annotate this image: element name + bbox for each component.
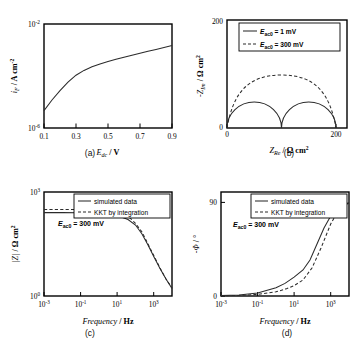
panel-c-legend-label-0: simulated data: [94, 198, 137, 205]
panel-d-xtick-3: 103: [326, 299, 336, 309]
panel-b-xtick-1: 200: [330, 130, 341, 139]
panel-a-plot: 0.1 0.3 0.5 0.7 0.9 10-2 10-6 iF / A cm-…: [0, 2, 181, 160]
panel-a-ytick-top: 10-2: [28, 19, 40, 29]
panel-d-xtick-0: 10-3: [215, 299, 227, 309]
panel-d-legend: simulated data KKT by integration: [251, 194, 347, 218]
panel-a-xtick-1: 0.3: [71, 132, 81, 141]
panel-c-ylabel: |Z| / Ω cm2: [10, 225, 20, 263]
panel-c-xtick-3: 103: [149, 299, 159, 309]
panel-a-label: (a): [70, 148, 110, 158]
panel-c-y-ticks: 103 100: [30, 187, 40, 301]
panel-d-xlabel: Frequency / Hz: [258, 317, 310, 326]
panel-b-ylabel: -ZIm / Ω cm2: [195, 55, 206, 97]
panel-c-ytick-top: 103: [30, 187, 40, 197]
panel-a-curve-if: [44, 46, 172, 111]
panel-a-xtick-0: 0.1: [39, 132, 49, 141]
panel-d-plot: 10-3 10-1 101 103 90 0 -Φ / ° Frequency …: [181, 178, 362, 352]
panel-c-xtick-0: 10-3: [38, 299, 50, 309]
panel-b-curve-1mv: [227, 102, 336, 128]
panel-b: 0 200 0 200 -ZIm / Ω cm2 ZRe / Ω cm2 Eac…: [181, 2, 362, 160]
panel-b-plot: 0 200 0 200 -ZIm / Ω cm2 ZRe / Ω cm2 Eac…: [181, 2, 362, 160]
panel-a-xtick-3: 0.7: [135, 132, 145, 141]
panel-c-xtick-2: 101: [112, 299, 122, 309]
panel-c: 10-3 10-1 101 103 103 100 |Z| / Ω cm2 Fr…: [0, 178, 181, 352]
panel-c-x-ticks: 10-3 10-1 101 103: [38, 292, 159, 309]
panel-a: 0.1 0.3 0.5 0.7 0.9 10-2 10-6 iF / A cm-…: [0, 2, 181, 160]
panel-b-ytick-1: 200: [212, 17, 223, 26]
figure-container: 0.1 0.3 0.5 0.7 0.9 10-2 10-6 iF / A cm-…: [0, 0, 362, 352]
panel-d-annotation: Eac0 = 300 mV: [233, 221, 279, 230]
panel-d-ytick-0: 0: [213, 292, 217, 301]
panel-c-plot: 10-3 10-1 101 103 103 100 |Z| / Ω cm2 Fr…: [0, 178, 181, 352]
panel-d-label: (d): [267, 328, 307, 338]
panel-d-legend-label-0: simulated data: [271, 198, 314, 205]
panel-b-legend: Eac0 = 1 mV Eac0 = 300 mV: [239, 23, 340, 51]
panel-d-y-ticks: 90 0: [210, 198, 225, 301]
panel-d: 10-3 10-1 101 103 90 0 -Φ / ° Frequency …: [181, 178, 362, 352]
panel-d-x-ticks: 10-3 10-1 101 103: [215, 292, 336, 309]
panel-d-ylabel: -Φ / °: [192, 235, 201, 254]
panel-a-x-ticks: 0.1 0.3 0.5 0.7 0.9: [39, 124, 177, 142]
panel-a-axes-frame: [44, 24, 172, 128]
panel-b-xtick-0: 0: [225, 130, 229, 139]
panel-a-y-ticks: 10-2 10-6: [28, 19, 40, 133]
panel-b-ytick-0: 0: [219, 123, 223, 132]
panel-c-annotation: Eac0 = 300 mV: [58, 220, 104, 229]
panel-c-legend: simulated data KKT by integration: [74, 194, 170, 218]
panel-b-curve-300mv: [227, 75, 336, 128]
panel-b-label: (b): [269, 148, 309, 158]
panel-c-legend-label-1: KKT by integration: [94, 209, 148, 217]
panel-a-ylabel: iF / A cm-2: [9, 59, 20, 94]
panel-d-legend-label-1: KKT by integration: [271, 209, 325, 217]
panel-d-xtick-2: 101: [289, 299, 299, 309]
panel-c-xlabel: Frequency / Hz: [81, 317, 133, 326]
panel-c-label: (c): [70, 328, 110, 338]
panel-d-ytick-90: 90: [210, 198, 218, 207]
panel-a-xtick-2: 0.5: [103, 132, 113, 141]
panel-a-xtick-4: 0.9: [167, 132, 177, 141]
panel-c-curve-kkt: [44, 209, 172, 288]
panel-c-xtick-1: 10-1: [75, 299, 87, 309]
panel-d-xtick-1: 10-1: [252, 299, 264, 309]
